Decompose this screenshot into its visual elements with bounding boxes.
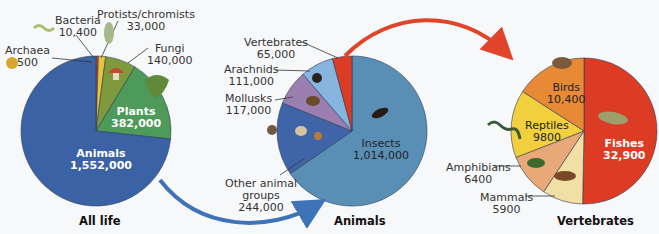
label-mammals: Mammals5900 [480, 192, 533, 216]
bird-icon [552, 57, 572, 69]
starfish-icon [314, 132, 322, 140]
snail-icon [306, 96, 320, 106]
label-reptiles: Reptiles9800 [525, 120, 569, 144]
label-protists: Protists/chromists33,000 [97, 9, 195, 33]
label-arachnids: Arachnids111,000 [224, 64, 279, 88]
chart-title-all-life: All life [79, 214, 120, 228]
chart-title-vertebrates: Vertebrates [557, 214, 634, 228]
jellyfish-icon [295, 126, 307, 136]
label-birds: Birds10,400 [547, 82, 586, 106]
chart-title-animals: Animals [334, 214, 386, 228]
slice-fishes [583, 58, 657, 204]
frog-icon [527, 158, 545, 168]
label-fishes: Fishes32,900 [603, 138, 645, 162]
label-plants: Plants382,000 [111, 106, 161, 130]
label-other-animal-groups: Other animalgroups244,000 [225, 178, 297, 214]
label-animals: Animals1,552,000 [70, 148, 132, 172]
label-archaea: Archaea500 [5, 45, 50, 69]
label-mollusks: Mollusks117,000 [225, 93, 272, 117]
label-vertebrates: Vertebrates65,000 [244, 37, 308, 61]
deer-icon [554, 171, 576, 181]
spider-icon [312, 73, 322, 83]
label-bacteria: Bacteria10,400 [55, 15, 101, 39]
label-insects: Insects1,014,000 [353, 138, 409, 162]
bacteria-icon [34, 26, 54, 31]
label-fungi: Fungi140,000 [147, 43, 193, 67]
label-amphibians: Amphibians6400 [446, 162, 511, 186]
crab-icon [267, 125, 277, 135]
red-expansion-arrow [345, 20, 505, 56]
